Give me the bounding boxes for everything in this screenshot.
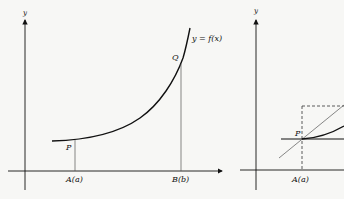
left-y-axis-label: y xyxy=(22,9,28,17)
tick-A-label: A(a) xyxy=(65,175,83,184)
point-P-label: P xyxy=(65,143,72,152)
tick-B-label: B(b) xyxy=(171,175,189,184)
curve-f xyxy=(52,28,190,141)
curve-label: y = f(x) xyxy=(191,34,222,43)
point-Q-label: Q xyxy=(172,53,179,62)
diagram-canvas: y P Q y = f(x) A(a) B(b) y P A(a) xyxy=(0,0,344,199)
left-figure: y P Q y = f(x) A(a) B(b) xyxy=(8,9,222,190)
right-y-axis-label: y xyxy=(253,7,259,15)
right-tick-A-label: A(a) xyxy=(291,175,309,184)
right-point-P-label: P xyxy=(294,129,301,138)
curve-f-right xyxy=(302,126,344,139)
right-figure: y P A(a) xyxy=(240,7,344,190)
